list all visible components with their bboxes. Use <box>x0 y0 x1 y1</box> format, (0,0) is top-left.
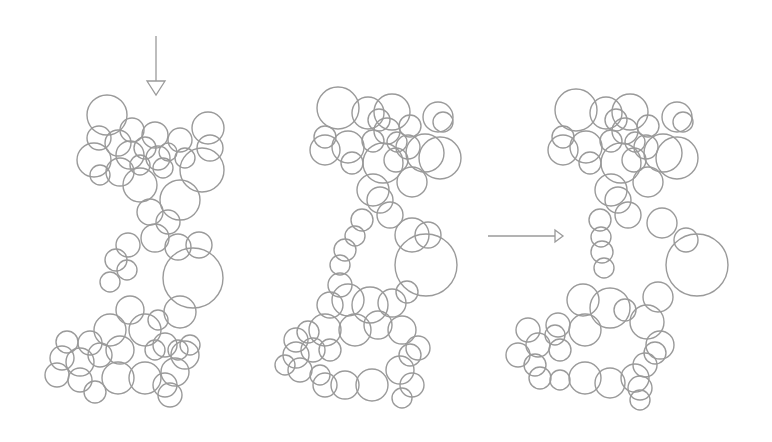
packing-circle <box>100 272 120 292</box>
packing-circle <box>614 299 636 321</box>
packing-initial <box>45 95 224 407</box>
packing-circle <box>339 314 371 346</box>
packing-circle <box>506 343 530 367</box>
circle-packing-diagram <box>0 0 772 442</box>
packing-circle <box>68 368 92 392</box>
packing-circle <box>397 167 427 197</box>
packing-circle <box>123 168 157 202</box>
packing-circle <box>378 289 406 317</box>
packing-circle <box>423 102 453 132</box>
packing-circle <box>116 296 144 324</box>
packing-circle <box>406 134 444 172</box>
packing-circle <box>615 202 641 228</box>
packing-circle <box>612 94 648 130</box>
packing-circle <box>288 358 312 382</box>
packing-circle <box>590 288 630 328</box>
packing-circle <box>433 112 453 132</box>
packing-circle <box>662 102 692 132</box>
packing-circle <box>153 373 177 397</box>
packing-circle <box>550 370 570 390</box>
packing-circle <box>548 135 578 165</box>
packing-circle <box>673 112 693 132</box>
packing-circle <box>396 281 418 303</box>
packing-circle <box>633 167 663 197</box>
packing-circle <box>362 130 384 152</box>
packing-circle <box>396 135 420 159</box>
packing-circle <box>160 180 200 220</box>
packing-circle <box>634 135 658 159</box>
packing-circle <box>164 296 196 328</box>
packing-circle <box>116 233 140 257</box>
packing-circle <box>374 94 410 130</box>
packing-circle <box>156 210 180 234</box>
packing-circle <box>275 355 295 375</box>
packing-circle <box>656 137 698 179</box>
packing-circle <box>395 234 457 296</box>
packing-circle <box>356 369 388 401</box>
packing-circle <box>161 358 189 386</box>
packing-circle <box>332 131 364 163</box>
packing-circle <box>529 367 551 389</box>
packing-circle <box>621 364 649 392</box>
packing-circle <box>186 232 212 258</box>
packing-circle <box>600 130 622 152</box>
packing-circle <box>332 284 364 316</box>
packing-circle <box>569 314 601 346</box>
packing-circle <box>45 363 69 387</box>
packing-intermediate <box>275 87 461 408</box>
packing-circle <box>399 344 421 366</box>
packing-clusters <box>45 87 728 410</box>
packing-circle <box>153 158 173 178</box>
right-arrow-icon <box>488 230 563 242</box>
packing-circle <box>328 273 352 297</box>
packing-circle <box>331 371 359 399</box>
packing-circle <box>105 130 131 156</box>
packing-circle <box>595 174 627 206</box>
packing-final <box>506 89 728 410</box>
packing-circle <box>419 137 461 179</box>
packing-circle <box>180 335 200 355</box>
packing-circle <box>605 187 631 213</box>
packing-circle <box>50 346 74 370</box>
packing-circle <box>567 284 599 316</box>
packing-circle <box>137 199 163 225</box>
packing-circle <box>549 339 571 361</box>
packing-circle <box>388 316 416 344</box>
packing-circle <box>643 282 673 312</box>
packing-circle <box>334 239 356 261</box>
packing-circle <box>647 208 677 238</box>
packing-circle <box>628 376 652 400</box>
packing-circle <box>630 305 664 339</box>
packing-circle <box>351 209 373 231</box>
packing-circle <box>357 174 389 206</box>
packing-circle <box>310 135 340 165</box>
packing-circle <box>605 109 627 131</box>
packing-circle <box>284 328 308 352</box>
packing-circle <box>545 325 565 345</box>
packing-circle <box>364 311 392 339</box>
packing-circle <box>330 255 350 275</box>
packing-circle <box>644 134 682 172</box>
packing-circle <box>570 131 602 163</box>
packing-circle <box>87 126 111 150</box>
packing-circle <box>319 339 341 361</box>
packing-circle <box>367 187 393 213</box>
packing-circle <box>171 341 199 369</box>
packing-circle <box>158 383 182 407</box>
packing-circle <box>594 258 614 278</box>
packing-circle <box>165 234 191 260</box>
down-arrow-icon <box>147 36 165 95</box>
packing-circle <box>646 331 674 359</box>
packing-circle <box>180 148 224 192</box>
